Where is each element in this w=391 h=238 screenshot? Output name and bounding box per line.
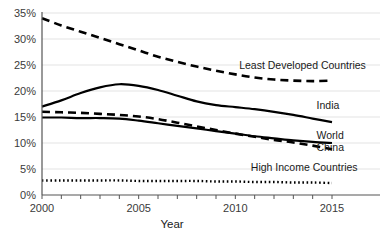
series-line-high-income-countries <box>42 180 332 183</box>
x-tick-2015: 2015 <box>320 202 344 214</box>
series-line-world <box>42 117 332 143</box>
x-axis-tickmarks <box>42 195 332 199</box>
label-high-income-countries: High Income Countries <box>251 161 358 173</box>
series-line-least-developed-countries <box>42 18 332 81</box>
x-axis-title: Year <box>160 218 183 230</box>
x-tick-2010: 2010 <box>223 202 247 214</box>
y-tick-15%: 15% <box>14 111 36 123</box>
y-tick-35%: 35% <box>14 7 36 19</box>
label-india: India <box>317 99 340 111</box>
y-tick-25%: 25% <box>14 59 36 71</box>
label-china: China <box>317 141 345 153</box>
label-least-developed-countries: Least Developed Countries <box>239 59 366 71</box>
y-tick-20%: 20% <box>14 85 36 97</box>
series-lines <box>42 18 332 183</box>
x-axis-tick-labels: 2000200520102015 <box>30 202 344 214</box>
y-tick-10%: 10% <box>14 137 36 149</box>
label-world: World <box>317 129 344 141</box>
y-tick-0%: 0% <box>20 189 36 201</box>
series-line-india <box>42 84 332 122</box>
y-tick-30%: 30% <box>14 33 36 45</box>
x-tick-2005: 2005 <box>126 202 150 214</box>
y-tick-5%: 5% <box>20 163 36 175</box>
line-chart: 0%5%10%15%20%25%30%35% 2000200520102015 … <box>0 0 391 238</box>
x-tick-2000: 2000 <box>30 202 54 214</box>
y-axis-tick-labels: 0%5%10%15%20%25%30%35% <box>14 7 36 201</box>
chart-svg: 0%5%10%15%20%25%30%35% 2000200520102015 … <box>0 0 391 238</box>
